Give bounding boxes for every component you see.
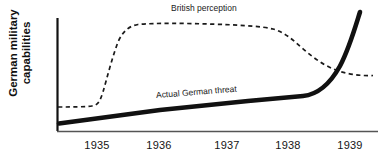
x-tick-label-1939: 1939 — [327, 139, 373, 151]
x-tick-label-1938: 1938 — [265, 139, 311, 151]
x-tick-label-1935: 1935 — [74, 139, 120, 151]
chart-container: German military capabilities British per… — [0, 0, 386, 165]
series-line-actual-german-threat — [59, 12, 360, 124]
x-tick-label-1937: 1937 — [204, 139, 250, 151]
x-tick-label-1936: 1936 — [136, 139, 182, 151]
series-annotation-british-perception: British perception — [171, 3, 237, 13]
